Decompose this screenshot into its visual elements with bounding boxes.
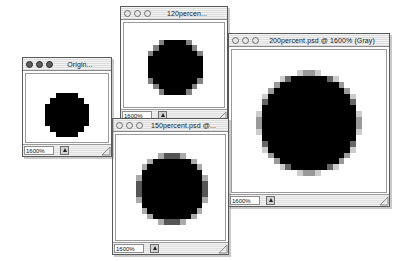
zoom-button[interactable] [136,122,143,129]
window-original[interactable]: Origin... 1600% [22,57,112,157]
titlebar-120percent[interactable]: 120percen... [121,7,227,20]
window-title-120percent: 120percen... [151,9,227,18]
doc-size-icon[interactable] [60,146,69,155]
window-120percent[interactable]: 120percen... 1600% [120,6,228,122]
statusbar-150percent: 1600% [113,242,228,254]
canvas-200percent[interactable] [231,49,387,193]
canvas-original[interactable] [25,73,109,143]
window-150percent[interactable]: 150percent.psd @... 1600% [112,118,229,255]
minimize-button[interactable] [134,10,141,17]
zoom-button[interactable] [252,37,259,44]
window-controls-120percent[interactable] [121,10,151,17]
status-filler [275,195,389,206]
titlebar-150percent[interactable]: 150percent.psd @... [113,119,228,132]
zoom-button[interactable] [144,10,151,17]
doc-size-icon[interactable] [150,244,159,253]
zoom-level-field-original[interactable]: 1600% [24,146,54,155]
zoom-level-field-150percent[interactable]: 1600% [114,244,144,253]
close-button[interactable] [124,10,131,17]
minimize-button[interactable] [242,37,249,44]
zoom-level-field-200percent[interactable]: 1600% [230,196,260,205]
doc-size-icon[interactable] [266,196,275,205]
minimize-button[interactable] [36,61,43,68]
titlebar-original[interactable]: Origin... [23,58,111,71]
window-controls-150percent[interactable] [113,122,143,129]
pixelated-circle-medium-antialias [131,148,213,230]
window-controls-original[interactable] [23,61,53,68]
canvas-150percent[interactable] [115,134,226,241]
statusbar-original: 1600% [23,144,111,156]
minimize-button[interactable] [126,122,133,129]
titlebar-200percent[interactable]: 200percent.psd @ 1600% (Gray) [229,34,389,47]
close-button[interactable] [232,37,239,44]
status-filler [159,243,228,254]
status-filler [69,145,111,156]
statusbar-200percent: 1600% [229,194,389,206]
pixelated-circle-aliased [39,87,95,143]
pixelated-circle-light-antialias [142,34,208,100]
window-controls-200percent[interactable] [229,37,259,44]
close-button[interactable] [26,61,33,68]
canvas-120percent[interactable] [123,22,225,108]
window-200percent[interactable]: 200percent.psd @ 1600% (Gray) 1600% [228,33,390,207]
window-title-original: Origin... [53,60,111,69]
close-button[interactable] [116,122,123,129]
zoom-button[interactable] [46,61,53,68]
window-title-150percent: 150percent.psd @... [143,121,228,130]
pixelated-circle-heavy-antialias [250,64,368,182]
window-title-200percent: 200percent.psd @ 1600% (Gray) [259,36,389,45]
